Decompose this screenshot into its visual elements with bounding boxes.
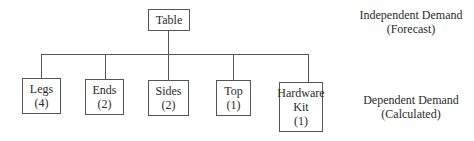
hardware-kit-node-qty: (1)	[294, 114, 308, 128]
top-stem	[233, 54, 234, 80]
ends-node: Ends (2)	[85, 79, 124, 115]
legs-node: Legs (4)	[22, 78, 61, 114]
root-stem	[168, 30, 169, 54]
legs-node-label: Legs	[30, 82, 53, 96]
top-node: Top (1)	[216, 80, 251, 116]
ends-stem	[105, 54, 106, 79]
sides-node: Sides (2)	[148, 80, 189, 116]
sides-node-label: Sides	[155, 84, 181, 98]
ends-node-qty: (2)	[98, 97, 112, 111]
legs-node-qty: (4)	[35, 96, 49, 110]
top-node-qty: (1)	[227, 98, 241, 112]
top-node-label: Top	[224, 84, 243, 98]
hardware-kit-node-label-line1: Hardware	[277, 86, 324, 100]
hardware-kit-stem	[308, 54, 309, 82]
ends-node-label: Ends	[93, 83, 117, 97]
sides-stem	[168, 54, 169, 80]
hardware-kit-node: Hardware Kit (1)	[279, 82, 323, 132]
dependent-demand-subtitle: (Calculated)	[331, 107, 474, 121]
table-node: Table	[148, 9, 190, 31]
independent-demand-title: Independent Demand	[331, 8, 474, 22]
dependent-demand-title: Dependent Demand	[331, 93, 474, 107]
horizontal-bus	[41, 54, 309, 55]
table-node-label: Table	[156, 13, 182, 27]
independent-demand-subtitle: (Forecast)	[331, 22, 474, 36]
independent-demand-label: Independent Demand (Forecast)	[331, 8, 474, 36]
sides-node-qty: (2)	[162, 98, 176, 112]
dependent-demand-label: Dependent Demand (Calculated)	[331, 93, 474, 121]
legs-stem	[41, 54, 42, 78]
hardware-kit-node-label-line2: Kit	[293, 100, 308, 114]
